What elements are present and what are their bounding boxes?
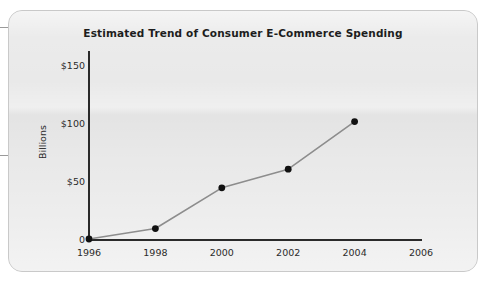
series-markers (86, 118, 358, 242)
data-point-marker (218, 184, 225, 191)
plot-area: Billions 0$50$100$150 199619982000200220… (9, 11, 478, 272)
data-point-marker (86, 236, 93, 243)
series-line (89, 122, 355, 239)
series-layer (9, 11, 478, 272)
screenshot-root: Estimated Trend of Consumer E-Commerce S… (0, 0, 495, 288)
data-point-marker (152, 225, 159, 232)
data-point-marker (351, 118, 358, 125)
data-point-marker (285, 166, 292, 173)
figure-card: Estimated Trend of Consumer E-Commerce S… (8, 10, 478, 272)
